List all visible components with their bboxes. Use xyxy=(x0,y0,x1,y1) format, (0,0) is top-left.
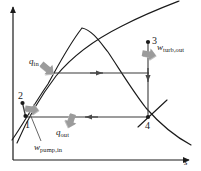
state-dot-2 xyxy=(20,101,24,105)
w-turb-out-block-arrow xyxy=(141,47,158,62)
q-in-subscript: in xyxy=(34,60,39,67)
w-turb-out-subscript: turb,out xyxy=(163,46,184,53)
state-point-dots xyxy=(20,40,150,119)
q-in-base: q xyxy=(29,56,34,66)
state-label-1: 1 xyxy=(25,120,30,130)
w-turb-out-label: wturb,out xyxy=(157,43,184,52)
state-dot-1 xyxy=(23,114,27,118)
isobar-high-pressure xyxy=(17,1,179,143)
w-pump-in-subscript: pump,in xyxy=(40,146,62,153)
state-dot-4 xyxy=(146,115,150,119)
state-label-4: 4 xyxy=(145,121,150,131)
w-pump-in-leader-line xyxy=(30,114,41,141)
ts-diagram-figure: 1 2 3 4 qin qout wturb,out wpump,in s xyxy=(0,0,201,171)
diagram-canvas xyxy=(0,0,201,171)
q-out-base: q xyxy=(56,127,61,137)
q-out-label: qout xyxy=(56,128,69,137)
x-axis-label: s xyxy=(184,158,188,167)
w-pump-in-label: wpump,in xyxy=(34,143,62,152)
state-label-2: 2 xyxy=(18,91,23,101)
q-in-label: qin xyxy=(29,57,39,66)
state-dot-3 xyxy=(146,40,150,44)
q-out-subscript: out xyxy=(61,131,70,138)
